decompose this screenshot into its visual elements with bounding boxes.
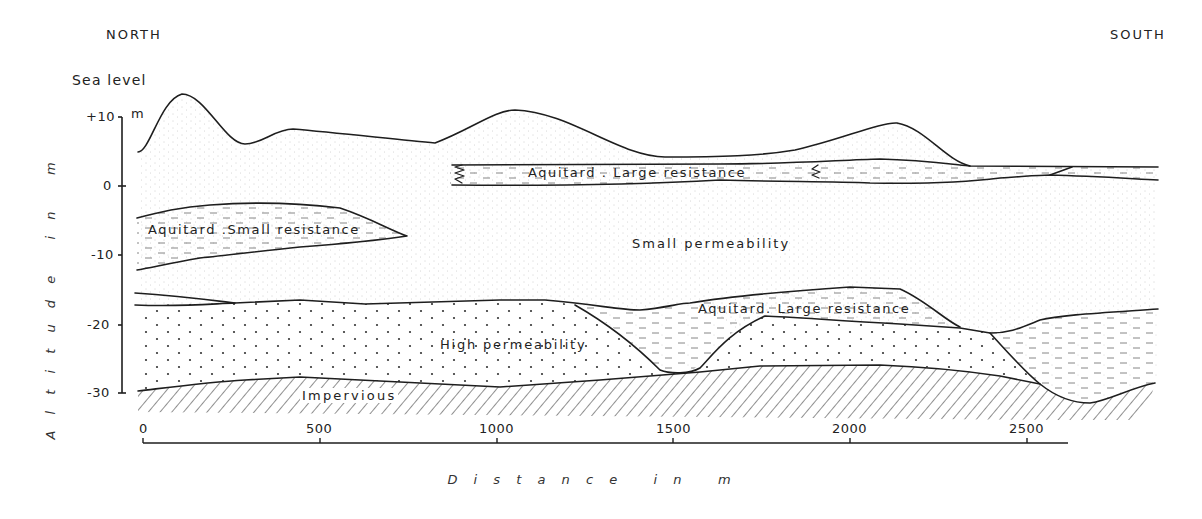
- impervious-label: Impervious: [300, 388, 398, 403]
- x-tick-label: 2500: [1009, 421, 1044, 436]
- x-tick-label: 500: [306, 421, 332, 436]
- y-unit-label: m: [131, 106, 145, 121]
- aquitard-small-label: Aquitard .Small resistance: [148, 222, 360, 237]
- y-axis-title: A l t i t u d e i n m: [43, 156, 58, 439]
- small-permeability-label: Small permeability: [632, 236, 790, 251]
- y-tick-label: +10: [86, 109, 115, 124]
- sea-level-label: Sea level: [72, 72, 147, 88]
- x-tick-label: 1500: [656, 421, 691, 436]
- y-tick-label: -20: [87, 317, 110, 332]
- south-label: SOUTH: [1110, 27, 1166, 42]
- y-tick-label: -10: [91, 247, 114, 262]
- y-axis: [118, 117, 126, 393]
- x-axis: [143, 438, 1068, 443]
- north-label: NORTH: [106, 27, 162, 42]
- cross-section-diagram: [0, 0, 1202, 519]
- x-tick-label: 2000: [832, 421, 867, 436]
- y-tick-label: 0: [103, 178, 112, 193]
- aquitard-large-upper-label: Aquitard . Large resistance: [528, 165, 746, 180]
- aquitard-large-lower-label: Aquitard. Large resistance: [698, 301, 910, 316]
- high-permeability-label: High permeability: [440, 337, 586, 352]
- x-tick-label: 1000: [479, 421, 514, 436]
- y-tick-label: -30: [87, 385, 110, 400]
- x-tick-label: 0: [139, 421, 148, 436]
- x-axis-title: D i s t a n c e i n m: [447, 472, 736, 487]
